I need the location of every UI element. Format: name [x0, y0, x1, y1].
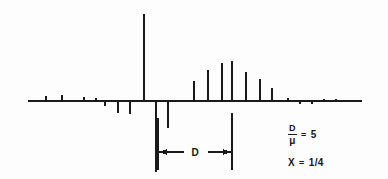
fraction-numerator: D: [289, 124, 296, 134]
ratio-equals-sign: =: [301, 131, 307, 140]
satellite-cluster-group: [194, 61, 272, 101]
chi-symbol: X: [288, 158, 295, 168]
noise-ticks-right-group: [272, 94, 336, 104]
fraction-d-over-mu: D μ: [288, 124, 297, 146]
annotation-ratio: D μ = 5: [288, 124, 384, 146]
parameter-annotations: D μ = 5 X = 1/4: [288, 124, 384, 168]
interval-label-d: D: [191, 147, 198, 158]
interval-dot: [180, 151, 182, 153]
noise-ticks-left-group: [46, 95, 96, 101]
downward-ticks-left-group: [105, 101, 130, 114]
figure-root: D D μ = 5 X = 1/4: [0, 0, 388, 179]
fraction-denominator: μ: [289, 135, 296, 146]
annotation-chi: X = 1/4: [288, 158, 384, 168]
chi-value: 1/4: [309, 158, 324, 168]
chi-equals-sign: =: [299, 159, 305, 168]
arrowhead-right: [223, 149, 231, 155]
arrowhead-left: [159, 149, 167, 155]
ratio-value: 5: [311, 130, 317, 140]
